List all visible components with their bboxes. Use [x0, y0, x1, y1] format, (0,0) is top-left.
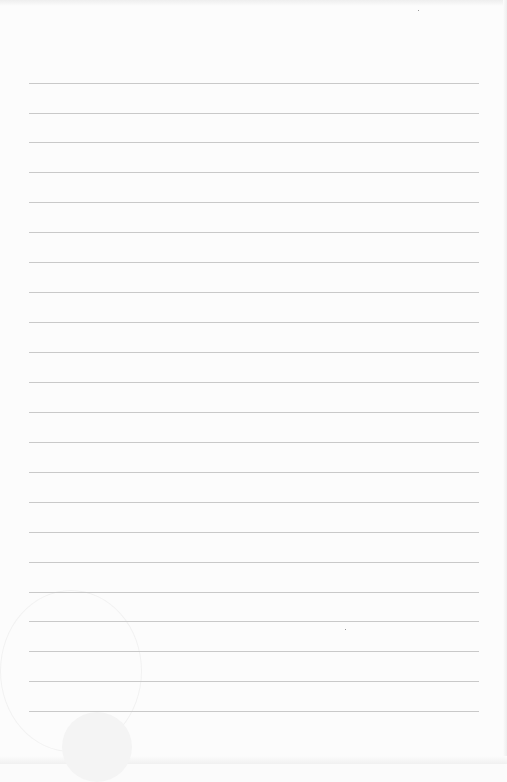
ruled-line: [29, 711, 479, 712]
ruled-line: [29, 202, 479, 203]
ruled-line: [29, 592, 479, 593]
ruled-line: [29, 472, 479, 473]
ruled-line: [29, 651, 479, 652]
ruled-line: [29, 562, 479, 563]
ruled-line: [29, 142, 479, 143]
ruled-line: [29, 681, 479, 682]
paper-speck: [418, 10, 419, 11]
ruled-line: [29, 292, 479, 293]
ruled-line: [29, 83, 479, 84]
ruled-line: [29, 322, 479, 323]
ruled-line: [29, 442, 479, 443]
paper-right-edge: [503, 0, 507, 764]
ruled-line: [29, 621, 479, 622]
ruled-line: [29, 412, 479, 413]
ruled-line: [29, 232, 479, 233]
ruled-line: [29, 352, 479, 353]
ruled-line: [29, 113, 479, 114]
ruled-line: [29, 262, 479, 263]
faint-watermark-seal: [62, 712, 132, 782]
ruled-line: [29, 502, 479, 503]
paper-top-edge: [0, 0, 507, 6]
ruled-line: [29, 532, 479, 533]
ruled-line: [29, 382, 479, 383]
paper-speck: [345, 629, 346, 630]
ruled-line: [29, 172, 479, 173]
